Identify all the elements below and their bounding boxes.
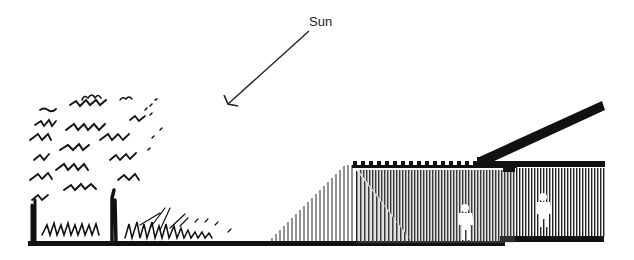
trees-illustration xyxy=(30,95,231,243)
sloped-roof xyxy=(477,101,605,163)
sun-arrow-icon xyxy=(224,31,309,106)
sun-label: Sun xyxy=(309,14,332,29)
section-diagram: Sun xyxy=(0,0,634,260)
sunlight-rays xyxy=(272,165,352,243)
building-section xyxy=(352,101,605,243)
